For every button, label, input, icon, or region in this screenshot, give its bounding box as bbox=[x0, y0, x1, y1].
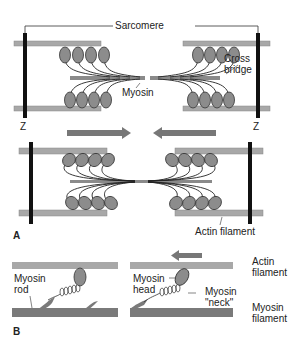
panel-b-letter: B bbox=[13, 326, 20, 337]
z-line-right-label: Z bbox=[253, 121, 259, 132]
myosin-filament-label: Myosin bbox=[252, 302, 284, 313]
actin-filament bbox=[14, 41, 101, 46]
myosin-filament-label-2: filament bbox=[252, 313, 287, 324]
myosin-rod-label-2: rod bbox=[14, 284, 28, 295]
contraction-arrows bbox=[67, 127, 216, 139]
z-line bbox=[256, 33, 260, 118]
actin-filament-b-label: Actin bbox=[252, 256, 274, 267]
z-line bbox=[23, 33, 27, 118]
myosin-label: Myosin bbox=[122, 87, 154, 98]
panel-a-letter: A bbox=[13, 230, 20, 241]
actin-filament-label: Actin filament bbox=[195, 226, 255, 237]
myosin-rod-label: Myosin bbox=[14, 273, 46, 284]
myosin-head-label: Myosin bbox=[133, 273, 165, 284]
sarcomere-label: Sarcomere bbox=[115, 20, 164, 31]
myosin-head bbox=[60, 47, 71, 63]
cross-bridge-label-2: bridge bbox=[224, 64, 252, 75]
actin-filament-b-label-2: filament bbox=[252, 267, 287, 278]
z-line-left-label: Z bbox=[20, 121, 26, 132]
contracted-sarcomere bbox=[19, 142, 263, 225]
myosin-neck-label: Myosin bbox=[205, 286, 237, 297]
myosin-neck-label-2: "neck" bbox=[205, 297, 233, 308]
myosin-head-label-2: head bbox=[133, 284, 155, 295]
cross-bridge-label: Cross bbox=[224, 53, 250, 64]
